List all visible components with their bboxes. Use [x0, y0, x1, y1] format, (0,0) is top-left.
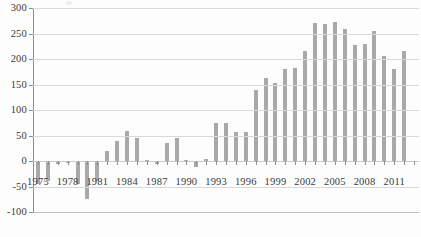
bar-2012 — [402, 51, 406, 161]
x-tick-2000 — [285, 161, 286, 165]
y-axis-label: 100 — [11, 105, 27, 115]
x-axis-label: 1987 — [146, 176, 168, 187]
x-axis-labels: 1975197819811984198719901993199619992002… — [33, 176, 419, 196]
x-tick-2012 — [404, 161, 405, 165]
x-tick-2007 — [355, 161, 356, 165]
bar-2000 — [283, 69, 287, 161]
bar-chart: 300250200150100500-50-100 19751978198119… — [0, 0, 421, 237]
y-axis-label: 300 — [11, 3, 27, 13]
y-axis-label: 150 — [11, 80, 27, 90]
x-axis-label: 2008 — [354, 176, 376, 187]
y-tick-0 — [29, 161, 33, 162]
y-axis-label: 0 — [22, 156, 27, 166]
x-tick-1988 — [167, 161, 168, 165]
x-tick-1996 — [246, 161, 247, 165]
x-tick-2008 — [365, 161, 366, 165]
x-tick-1982 — [107, 161, 108, 165]
x-tick-1986 — [147, 161, 148, 165]
bar-2009 — [372, 31, 376, 161]
bar-2011 — [392, 69, 396, 161]
y-axis-labels: 300250200150100500-50-100 — [0, 0, 31, 237]
gridline-50 — [33, 136, 419, 137]
bar-1985 — [135, 138, 139, 161]
bar-1993 — [214, 123, 218, 161]
bar-2007 — [353, 45, 357, 161]
y-tick--100 — [29, 212, 33, 213]
x-axis-label: 2011 — [384, 176, 405, 187]
y-tick-300 — [29, 8, 33, 9]
gridline-300 — [33, 8, 419, 9]
y-tick-250 — [29, 34, 33, 35]
x-tick-1978 — [68, 161, 69, 165]
x-tick-1984 — [127, 161, 128, 165]
gridline--100 — [33, 212, 419, 213]
x-tick-2006 — [345, 161, 346, 165]
x-axis-label: 1981 — [86, 176, 108, 187]
x-tick-1997 — [256, 161, 257, 165]
x-tick-2010 — [384, 161, 385, 165]
x-tick-2002 — [305, 161, 306, 165]
gridline-150 — [33, 85, 419, 86]
x-tick-1994 — [226, 161, 227, 165]
y-axis-label: 200 — [11, 54, 27, 64]
x-axis-label: 1999 — [265, 176, 287, 187]
y-axis-label: 250 — [11, 29, 27, 39]
gridline-250 — [33, 34, 419, 35]
x-tick-1976 — [48, 161, 49, 165]
x-tick-1989 — [177, 161, 178, 165]
bar-2002 — [303, 51, 307, 161]
x-tick-1979 — [78, 161, 79, 165]
bar-2001 — [293, 68, 297, 161]
x-tick-1981 — [97, 161, 98, 165]
y-tick-50 — [29, 136, 33, 137]
x-tick-1987 — [157, 161, 158, 165]
x-tick-1999 — [275, 161, 276, 165]
bar-1989 — [175, 138, 179, 161]
x-tick-1977 — [58, 161, 59, 165]
gridline-100 — [33, 110, 419, 111]
gridline-200 — [33, 59, 419, 60]
bar-1998 — [264, 78, 268, 161]
x-axis-label: 1993 — [205, 176, 227, 187]
x-tick-1975 — [38, 161, 39, 165]
x-tick-2013 — [414, 161, 415, 165]
bar-2005 — [333, 22, 337, 161]
x-tick-1983 — [117, 161, 118, 165]
bar-1994 — [224, 123, 228, 161]
bar-1983 — [115, 141, 119, 161]
bar-2010 — [382, 56, 386, 161]
x-axis-label: 2005 — [324, 176, 346, 187]
x-tick-1991 — [196, 161, 197, 165]
bar-2004 — [323, 24, 327, 161]
x-tick-2009 — [374, 161, 375, 165]
bar-1988 — [165, 143, 169, 161]
x-tick-1992 — [206, 161, 207, 165]
y-axis-label: -100 — [7, 207, 27, 217]
x-axis-label: 1984 — [116, 176, 138, 187]
x-axis-label: 1996 — [235, 176, 257, 187]
bar-1997 — [254, 90, 258, 161]
x-tick-1980 — [87, 161, 88, 165]
bar-2006 — [343, 29, 347, 161]
x-tick-1995 — [236, 161, 237, 165]
x-axis-label: 1975 — [27, 176, 49, 187]
x-tick-1990 — [186, 161, 187, 165]
x-tick-2005 — [335, 161, 336, 165]
y-tick-100 — [29, 110, 33, 111]
bar-1999 — [273, 83, 277, 161]
y-tick-150 — [29, 85, 33, 86]
x-tick-1993 — [216, 161, 217, 165]
bar-1982 — [105, 151, 109, 161]
y-axis-label: -50 — [12, 182, 27, 192]
x-axis-label: 1990 — [176, 176, 198, 187]
x-tick-1998 — [266, 161, 267, 165]
x-tick-2004 — [325, 161, 326, 165]
x-axis-label: 2002 — [294, 176, 316, 187]
scan-artifact — [66, 1, 72, 5]
bar-2003 — [313, 23, 317, 161]
x-axis-label: 1978 — [57, 176, 79, 187]
y-axis-label: 50 — [16, 131, 27, 141]
x-tick-2011 — [394, 161, 395, 165]
y-tick-200 — [29, 59, 33, 60]
x-tick-2003 — [315, 161, 316, 165]
